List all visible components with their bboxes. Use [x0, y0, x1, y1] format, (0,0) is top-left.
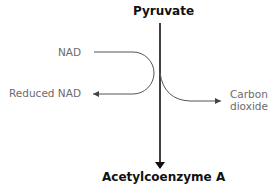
nad-loop-arrow: [93, 52, 154, 94]
carbon-dioxide-label-line1: Carbon: [230, 88, 268, 100]
pyruvate-label: Pyruvate: [133, 4, 194, 18]
carbon-dioxide-label-line2: dioxide: [230, 100, 268, 112]
reduced-nad-label: Reduced NAD: [9, 87, 81, 99]
nad-label: NAD: [58, 46, 81, 58]
co2-branch-arrow: [160, 73, 221, 101]
acetylcoenzyme-a-label: Acetylcoenzyme A: [102, 170, 225, 184]
